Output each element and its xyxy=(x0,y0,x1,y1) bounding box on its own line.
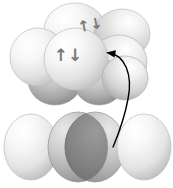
sphere-right-front-lower xyxy=(102,56,148,100)
spin-arrows-lower-icon: ↑↓ xyxy=(54,45,83,65)
figure-canvas: ↑↓ ↑↓ xyxy=(0,0,173,188)
orbital-overlap-figure: ↑↓ ↑↓ xyxy=(0,0,173,188)
lobe-right xyxy=(117,114,171,180)
orbital-lobe-row xyxy=(4,112,171,182)
